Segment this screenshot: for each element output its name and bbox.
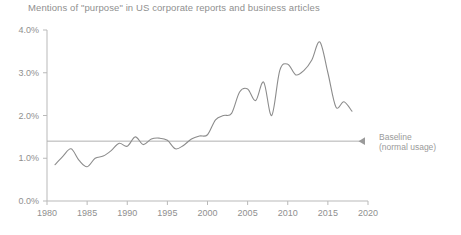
- baseline-annotation-label: Baseline: [379, 132, 412, 142]
- y-tick-label: 3.0%: [18, 68, 39, 78]
- y-tick-label: 0.0%: [18, 196, 39, 206]
- x-tick-label: 2020: [358, 208, 378, 218]
- y-axis-tick-labels: 0.0%1.0%2.0%3.0%4.0%: [18, 25, 39, 206]
- x-tick-label: 1995: [157, 208, 177, 218]
- x-tick-label: 2000: [197, 208, 217, 218]
- line-chart-plot: 0.0%1.0%2.0%3.0%4.0% 1980198519901995200…: [0, 0, 461, 235]
- baseline-annotation-sublabel: (normal usage): [379, 142, 436, 152]
- y-tick-label: 4.0%: [18, 25, 39, 35]
- x-tick-label: 2015: [318, 208, 338, 218]
- x-tick-label: 1985: [77, 208, 97, 218]
- y-tick-label: 1.0%: [18, 153, 39, 163]
- x-tick-label: 1990: [117, 208, 137, 218]
- series-line-purpose: [55, 42, 352, 167]
- x-tick-label: 2010: [278, 208, 298, 218]
- y-axis-tick-marks: [43, 30, 47, 201]
- chart-container: Mentions of "purpose" in US corporate re…: [0, 0, 461, 235]
- x-axis-tick-labels: 198019851990199520002005201020152020: [37, 208, 378, 218]
- x-axis-tick-marks: [47, 201, 368, 205]
- x-tick-label: 1980: [37, 208, 57, 218]
- y-tick-label: 2.0%: [18, 111, 39, 121]
- baseline-arrow-icon: [359, 137, 366, 145]
- x-tick-label: 2005: [238, 208, 258, 218]
